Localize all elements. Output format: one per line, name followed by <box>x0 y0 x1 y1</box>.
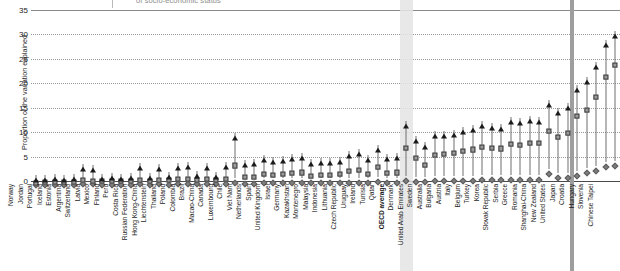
marker-diamond <box>612 162 619 169</box>
category-label: Bulgaria <box>425 184 432 208</box>
range-stem <box>567 103 568 173</box>
data-column <box>107 10 117 181</box>
marker-triangle <box>422 145 428 150</box>
category-label: Kazakhstan <box>283 184 290 218</box>
marker-triangle <box>603 43 609 48</box>
data-column <box>487 10 497 181</box>
category-label: Argentina <box>55 184 62 212</box>
data-column <box>259 10 269 181</box>
marker-triangle <box>299 155 305 160</box>
category-label: Czech Republic <box>330 184 337 229</box>
marker-diamond <box>488 177 495 184</box>
category-label: Estonia <box>45 184 52 206</box>
category-label: Mexico <box>83 184 90 205</box>
marker-diamond <box>536 176 543 183</box>
category-label: Thailand <box>150 184 157 209</box>
category-label: Qatar <box>368 184 375 200</box>
marker-triangle <box>498 127 504 132</box>
marker-square <box>366 171 371 176</box>
data-column <box>601 10 611 181</box>
marker-square <box>328 173 333 178</box>
marker-diamond <box>574 173 581 180</box>
marker-triangle <box>565 105 571 110</box>
data-column <box>582 10 592 181</box>
category-label: Spain <box>245 184 252 201</box>
marker-square <box>461 148 466 153</box>
marker-triangle <box>71 177 77 182</box>
category-label: Greece <box>501 184 508 205</box>
data-column <box>468 10 478 181</box>
data-column <box>516 10 526 181</box>
category-label: Austria <box>435 184 442 204</box>
category-label: Slovak Republic <box>482 184 489 231</box>
marker-triangle <box>584 79 590 84</box>
marker-square <box>309 173 314 178</box>
category-label: Denmark <box>387 184 394 210</box>
data-column <box>421 10 431 181</box>
marker-square <box>527 141 532 146</box>
category-label: Latvia <box>74 184 81 201</box>
marker-triangle <box>270 159 276 164</box>
range-stem <box>558 108 559 173</box>
category-label: Shanghai-China <box>520 184 527 231</box>
chart-root: of socio-economic status Proportion of t… <box>0 0 620 271</box>
chart-title-strip: of socio-economic status <box>0 0 620 9</box>
data-column <box>69 10 79 181</box>
data-column <box>145 10 155 181</box>
marker-square <box>594 94 599 99</box>
plot-area: 35302520151050 <box>31 10 620 181</box>
marker-square <box>252 174 257 179</box>
title-divider <box>112 0 113 8</box>
category-label: Russian Federation <box>121 184 128 240</box>
category-label: Netherlands <box>235 184 242 219</box>
marker-square <box>185 176 190 181</box>
range-stem <box>596 62 597 167</box>
marker-square <box>204 177 209 182</box>
marker-triangle <box>280 158 286 163</box>
category-label: Ireland <box>349 184 356 204</box>
marker-square <box>318 173 323 178</box>
data-column <box>402 10 412 181</box>
data-column <box>392 10 402 181</box>
category-label: Malaysia <box>302 184 309 210</box>
marker-square <box>613 62 618 67</box>
marker-triangle <box>99 176 105 181</box>
data-column <box>288 10 298 181</box>
category-label: Liechtenstein <box>140 184 147 222</box>
marker-square <box>385 171 390 176</box>
category-label: Germany <box>273 184 280 211</box>
data-column <box>506 10 516 181</box>
marker-triangle <box>346 153 352 158</box>
data-column <box>307 10 317 181</box>
category-label: Canada <box>197 184 204 207</box>
marker-square <box>90 178 95 183</box>
data-column <box>117 10 127 181</box>
data-column <box>88 10 98 181</box>
marker-triangle <box>413 139 419 144</box>
category-label: Hungary <box>568 184 575 209</box>
data-column <box>98 10 108 181</box>
category-label: Indonesia <box>311 184 318 212</box>
data-column <box>592 10 602 181</box>
range-stem <box>577 85 578 171</box>
chart-title-fragment: of socio-economic status <box>136 0 221 5</box>
category-label: Lithuania <box>321 184 328 210</box>
marker-square <box>489 145 494 150</box>
data-column <box>79 10 89 181</box>
marker-triangle <box>318 160 324 165</box>
range-stem <box>548 100 549 169</box>
category-label: United States <box>539 184 546 223</box>
marker-square <box>157 177 162 182</box>
marker-triangle <box>109 176 115 181</box>
marker-triangle <box>128 176 134 181</box>
range-stem <box>615 31 616 161</box>
marker-square <box>404 145 409 150</box>
category-label: Slovenia <box>577 184 584 209</box>
marker-triangle <box>574 88 580 93</box>
marker-triangle <box>337 159 343 164</box>
marker-triangle <box>403 123 409 128</box>
data-column <box>193 10 203 181</box>
data-column <box>345 10 355 181</box>
marker-diamond <box>555 175 562 182</box>
data-column <box>41 10 51 181</box>
